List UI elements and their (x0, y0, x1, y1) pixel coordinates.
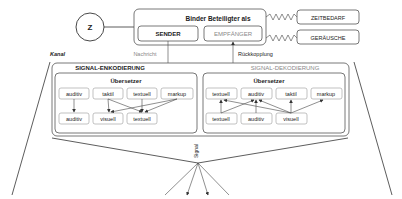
noise-springs (266, 14, 297, 41)
enc-input-taktil: taktil (102, 91, 113, 97)
decoding-title: SIGNAL-DEKODIERUNG (251, 65, 320, 71)
decoding-translator: Übersetzer (253, 78, 285, 84)
dec-input-textuell: textuell (212, 116, 229, 122)
participant-box: Binder Beteiligter als SENDER EMPFÄNGER (134, 9, 266, 45)
feedback-label: Rückkopplung (238, 51, 273, 57)
enc-input-textuell: textuell (133, 91, 150, 97)
enc-input-auditiv: auditiv (66, 91, 82, 97)
enc-output-auditiv: auditiv (66, 116, 82, 122)
dec-input-auditiv: auditiv (248, 116, 264, 122)
participant-title: Binder Beteiligter als (185, 15, 250, 23)
noise-label: GERÄUSCHE (311, 35, 346, 41)
enc-output-visuell: visuell (100, 116, 115, 122)
enc-output-textuell: textuell (133, 116, 150, 122)
dec-input-visuell: visuell (283, 116, 298, 122)
message-label: Nachricht (133, 51, 157, 57)
z-label: Z (88, 23, 93, 32)
dec-output-markup: markup (317, 91, 335, 97)
time-demand-label: ZEITBEDARF (311, 15, 346, 21)
receiver-label: EMPFÄNGER (214, 31, 253, 37)
encoding-section: SIGNAL-ENKODIERUNG Übersetzer auditiv ta… (55, 65, 197, 133)
channel-label: Kanal (50, 51, 65, 57)
dec-output-auditiv: auditiv (248, 91, 264, 97)
signal-label: Signal (193, 144, 199, 158)
z-circle: Z (76, 13, 134, 41)
communication-model-diagram: Z Binder Beteiligter als SENDER EMPFÄNGE… (0, 0, 402, 199)
encoding-translator: Übersetzer (110, 78, 142, 84)
sender-label: SENDER (155, 31, 181, 37)
encoding-title: SIGNAL-ENKODIERUNG (75, 65, 145, 71)
signal-rays (165, 163, 229, 195)
decoding-section: SIGNAL-DEKODIERUNG Übersetzer textuell a… (203, 65, 345, 133)
enc-input-markup: markup (168, 91, 186, 97)
dec-output-textuell: textuell (212, 91, 229, 97)
dec-output-taktil: taktil (285, 91, 296, 97)
